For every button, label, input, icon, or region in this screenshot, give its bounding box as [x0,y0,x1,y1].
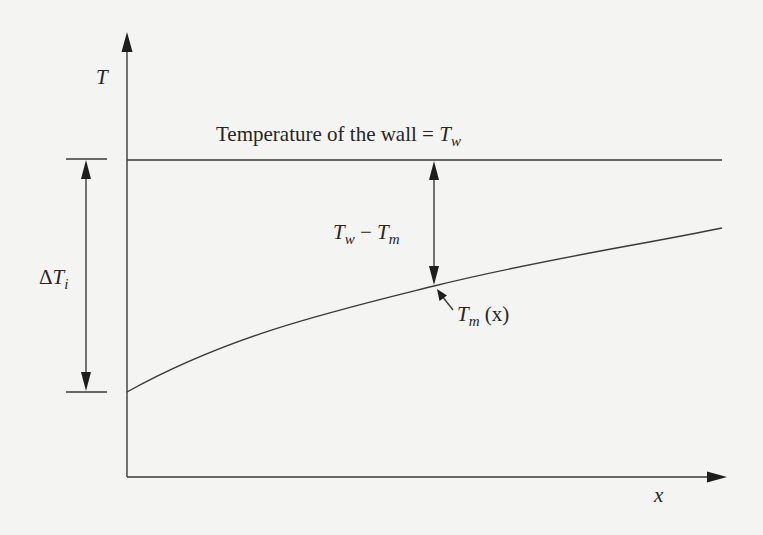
curve-label: Tm (x) [457,302,509,329]
initial-difference-label: ΔTi [39,265,68,292]
down-arrow-icon [81,372,91,391]
y-axis-arrow-icon [122,32,133,52]
x-axis-arrow-icon [707,472,727,483]
x-axis-label: x [653,483,664,507]
initial-difference-dimension: ΔTi [39,159,107,392]
up-arrow-icon [81,160,91,179]
x-axis: x [127,472,727,508]
down-arrow-icon [429,266,439,285]
local-difference-dimension: Tw − Tm [333,161,439,285]
wall-temperature-line: Temperature of the wall = Tw [127,122,722,160]
wall-temperature-label: Temperature of the wall = Tw [216,122,461,149]
heat-transfer-diagram: T x Temperature of the wall = Tw ΔTi Tw … [0,0,763,535]
local-difference-label: Tw − Tm [333,220,400,247]
y-axis: T [96,32,133,477]
y-axis-label: T [96,65,109,89]
mean-temperature-curve [127,228,722,392]
pointer-arrow-icon [437,289,447,301]
up-arrow-icon [429,161,439,180]
curve-pointer: Tm (x) [437,289,509,329]
